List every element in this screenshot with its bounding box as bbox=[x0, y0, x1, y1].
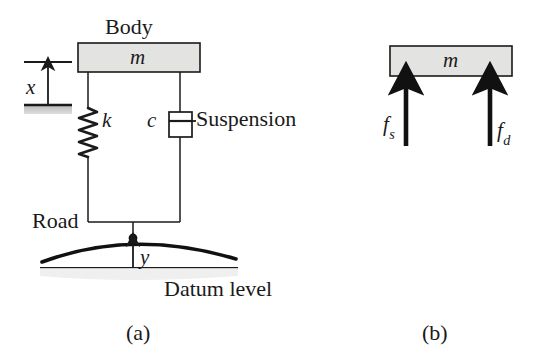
damper-cylinder bbox=[169, 112, 192, 137]
road-label: Road bbox=[32, 210, 78, 232]
damper-force-subscript: d bbox=[503, 132, 510, 148]
figure-container: Body m x k c Suspension Road y Datum lev… bbox=[0, 0, 543, 358]
suspension-label: Suspension bbox=[196, 108, 296, 130]
spring-force-label: fs bbox=[383, 114, 394, 138]
caption-a: (a) bbox=[126, 322, 150, 344]
body-label: Body bbox=[105, 16, 153, 38]
road-curve bbox=[42, 244, 236, 262]
mass-label-a: m bbox=[130, 47, 145, 68]
caption-b: (b) bbox=[422, 322, 448, 344]
spring-coil bbox=[79, 108, 97, 157]
spring-force-subscript: s bbox=[389, 126, 395, 142]
displacement-x-label: x bbox=[26, 77, 35, 98]
spring-force-symbol: f bbox=[383, 112, 389, 136]
datum-level-label: Datum level bbox=[164, 278, 272, 300]
spring-constant-label: k bbox=[102, 110, 111, 131]
road-displacement-y-label: y bbox=[140, 247, 149, 268]
damper-force-symbol: f bbox=[497, 118, 503, 142]
mass-label-b: m bbox=[443, 50, 458, 71]
quarter-car-suspension-diagram bbox=[0, 0, 543, 358]
damper-force-label: fd bbox=[497, 120, 510, 144]
x-reference-ground bbox=[24, 105, 72, 114]
damping-coefficient-label: c bbox=[147, 110, 156, 131]
